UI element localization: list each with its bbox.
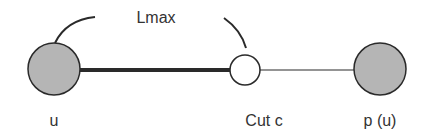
lmax-arc-right [224, 18, 246, 48]
node-u [28, 43, 80, 95]
node-u-label: u [50, 112, 59, 129]
cut-diagram: Lmax u Cut c p (u) [0, 0, 428, 138]
node-cut-c-label: Cut c [245, 112, 282, 129]
node-cut-c [230, 55, 260, 85]
lmax-label: Lmax [136, 9, 175, 26]
node-p-u [354, 43, 406, 95]
lmax-arc-left [55, 17, 95, 43]
node-p-u-label: p (u) [364, 112, 397, 129]
